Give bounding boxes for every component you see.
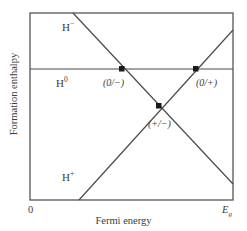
x-axis-title: Fermi energy [0, 216, 247, 227]
plot-frame [30, 13, 233, 200]
series-label-h-zero: H0 [56, 78, 68, 89]
y-axis-title-wrap: Formation enthalpy [0, 0, 26, 187]
transition-label-0-minus: (0/−) [103, 78, 124, 88]
series-label-h-plus: H+ [62, 172, 74, 183]
formation-enthalpy-chart: H− H0 H+ (0/−) (0/+) (+/−) 0 Eg Fermi en… [0, 0, 247, 231]
x-tick-origin: 0 [28, 205, 33, 216]
x-tick-max: Eg [222, 205, 232, 216]
transition-marker-plus-minus [156, 103, 162, 109]
chart-canvas [0, 0, 247, 231]
y-axis-title: Formation enthalpy [8, 52, 19, 135]
transition-label-plus-minus: (+/−) [148, 119, 171, 129]
transition-label-0-plus: (0/+) [196, 78, 217, 88]
transition-marker-0-plus [193, 66, 199, 72]
transition-marker-0-minus [119, 66, 125, 72]
series-label-h-minus: H− [62, 22, 74, 33]
